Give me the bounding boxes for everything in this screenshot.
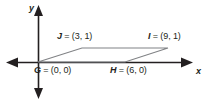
y-axis-down-arrow-icon (34, 88, 43, 99)
vertex-label-i-coords: = (9, 1) (150, 31, 180, 41)
vertex-label-h: H = (6, 0) (110, 65, 147, 75)
vertex-label-g: G = (0, 0) (34, 65, 71, 75)
x-axis-left-arrow-icon (6, 58, 18, 68)
vertex-label-j-coords: = (3, 1) (62, 31, 92, 41)
parallelogram-ghij (38, 48, 168, 62)
x-axis-label: x (196, 66, 201, 76)
y-axis-label: y (29, 3, 34, 13)
vertex-label-g-point: G (34, 65, 41, 75)
vertex-label-j: J = (3, 1) (57, 31, 92, 41)
x-axis-right-arrow-icon (181, 58, 193, 68)
vertex-label-h-coords: = (6, 0) (116, 65, 146, 75)
coordinate-plane-drawing (0, 0, 209, 102)
y-axis-up-arrow-icon (34, 5, 43, 16)
vertex-label-i: I = (9, 1) (148, 31, 181, 41)
vertex-label-g-coords: = (0, 0) (41, 65, 71, 75)
geometry-figure: J = (3, 1) I = (9, 1) G = (0, 0) H = (6,… (0, 0, 209, 102)
